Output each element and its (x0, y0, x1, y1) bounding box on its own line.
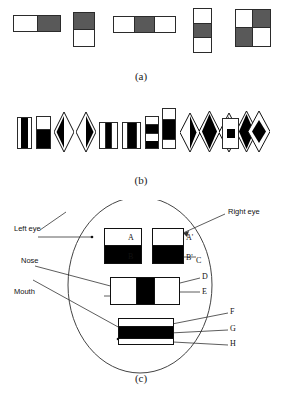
mouth-feature (118, 318, 174, 345)
cell-light (194, 9, 211, 24)
feature-two-rectangle-horizontal (13, 15, 61, 32)
cell-dark-bl (236, 28, 253, 46)
feature-b-4-diamond (76, 112, 96, 152)
cell-light (155, 17, 175, 32)
cell-black (119, 327, 173, 338)
label-mouth: Mouth (14, 287, 35, 296)
cell-light (111, 278, 137, 304)
left-eye-feature (104, 228, 142, 264)
feature-b-7 (145, 116, 159, 149)
cell-black (163, 120, 175, 139)
cell-black (146, 125, 158, 133)
cell-black (37, 130, 50, 148)
cell-light (154, 278, 180, 304)
cell-black (137, 278, 154, 304)
cell-light (14, 16, 38, 31)
marker-A-prime: A' (186, 233, 193, 242)
feature-b-1 (17, 117, 32, 149)
cell-black (105, 246, 141, 263)
marker-E: E (202, 287, 207, 296)
label-right-eye: Right eye (228, 207, 260, 216)
cell-light (146, 117, 158, 125)
marker-D: D (202, 272, 208, 281)
cell-light (74, 30, 94, 46)
cell-light (163, 109, 175, 120)
caption-panel-b: (b) (0, 174, 282, 186)
marker-B: B (128, 252, 133, 261)
marker-A: A (128, 233, 134, 242)
feature-b-8 (162, 108, 176, 149)
marker-G: G (230, 324, 236, 333)
cell-light (119, 319, 173, 327)
right-eye-feature (152, 228, 184, 264)
feature-four-rectangle-checkerboard (235, 9, 271, 47)
feature-three-rectangle-horizontal (113, 16, 176, 33)
cell-black-core (227, 129, 235, 138)
caption-panel-a: (a) (0, 70, 282, 82)
cell-light (111, 123, 117, 148)
cell-black (153, 246, 183, 263)
feature-b-5 (99, 122, 118, 149)
cell-light (105, 229, 141, 246)
marker-H: H (230, 339, 236, 348)
cell-light (136, 123, 140, 148)
cell-dark (194, 24, 211, 39)
caption-panel-c: (c) (0, 372, 282, 384)
cell-light-tl (236, 10, 253, 28)
cell-light (114, 17, 135, 32)
feature-b-10-diamond (199, 111, 220, 152)
panel-c: Left eye Right eye Nose Mouth A B A' B' … (0, 200, 282, 375)
feature-three-rectangle-vertical (193, 8, 212, 53)
cell-light (194, 38, 211, 52)
feature-b-14-diamond (248, 111, 270, 152)
cell-light (28, 118, 31, 148)
feature-b-9-diamond (180, 113, 200, 152)
marker-C: C (196, 256, 201, 265)
cell-light (163, 139, 175, 148)
marker-B-prime: B' (186, 253, 193, 262)
cell-light (153, 229, 183, 246)
cell-black (128, 123, 136, 148)
cell-light-br (253, 28, 270, 46)
marker-F: F (230, 307, 234, 316)
nose-feature (110, 277, 180, 305)
cell-dark (135, 17, 156, 32)
cell-dark-tr (253, 10, 270, 28)
cell-light (37, 117, 50, 130)
cell-dark (74, 13, 94, 30)
cell-light (119, 338, 173, 344)
figure-root: (a) (0, 0, 282, 396)
cell-black (21, 118, 28, 148)
feature-b-3-diamond (54, 112, 74, 152)
label-nose: Nose (21, 256, 39, 265)
feature-b-2 (36, 116, 51, 149)
feature-b-6 (122, 122, 141, 149)
cell-dark (38, 16, 61, 31)
feature-b-13 (222, 118, 239, 149)
feature-two-rectangle-vertical (73, 12, 95, 47)
label-left-eye: Left eye (14, 224, 41, 233)
cell-black (146, 141, 158, 148)
cell-light (146, 133, 158, 141)
